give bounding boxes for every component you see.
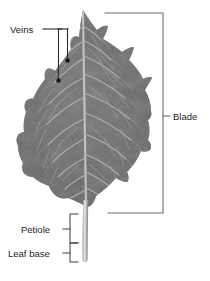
petiole-bracket	[70, 214, 78, 243]
leaf-base-annotation[interactable]: Leaf base	[8, 243, 78, 262]
veins-point-marker-2	[65, 58, 69, 62]
blade-label: Blade	[173, 111, 197, 122]
leaf-base-bracket	[70, 243, 78, 262]
leaf-blade	[14, 6, 159, 211]
veins-point-marker-1	[56, 78, 60, 82]
leaf-anatomy-figure: Veins Blade Petiole Le	[0, 0, 210, 281]
petiole-annotation[interactable]: Petiole	[21, 214, 78, 243]
leaf-diagram-svg: Veins Blade Petiole Le	[0, 0, 210, 281]
leaf-base-label: Leaf base	[8, 248, 50, 259]
veins-label: Veins	[10, 24, 33, 35]
petiole-stalk	[82, 200, 88, 262]
petiole-label: Petiole	[21, 224, 50, 235]
